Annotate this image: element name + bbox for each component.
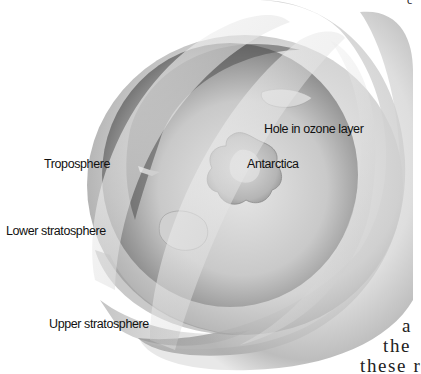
page-text-corner-fragment: c — [407, 0, 414, 6]
label-hole-in-ozone-layer: Hole in ozone layer — [264, 123, 363, 136]
page-text-line-2: the — [383, 336, 411, 355]
label-lower-stratosphere: Lower stratosphere — [6, 225, 106, 238]
label-troposphere: Troposphere — [44, 158, 110, 171]
page-text-line-3: these r — [360, 356, 421, 374]
label-upper-stratosphere: Upper stratosphere — [49, 318, 149, 331]
page-text-line-1: a — [402, 316, 412, 335]
label-antarctica: Antarctica — [247, 158, 299, 171]
